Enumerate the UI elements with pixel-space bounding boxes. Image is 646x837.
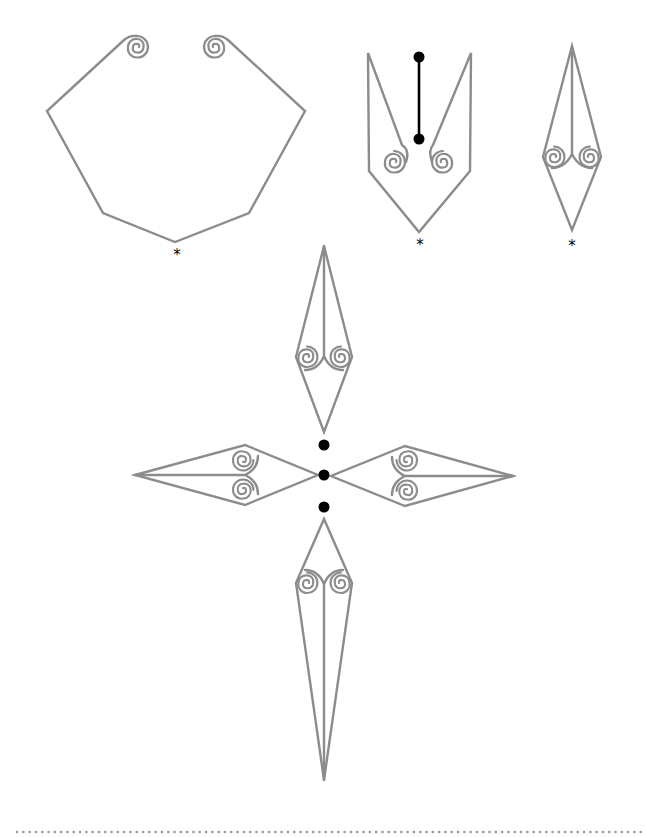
center-dot-middle (319, 470, 330, 481)
spiral-icon (128, 36, 148, 58)
cross-bottom-diamond (296, 519, 352, 780)
spiral-icon (233, 480, 253, 499)
cross-top-diamond (296, 246, 352, 432)
pin-dot-top (414, 52, 425, 63)
spiral-icon (331, 573, 350, 593)
fold-marker: * (568, 237, 576, 255)
diamond-center-line (392, 457, 513, 495)
spiral-icon (298, 347, 317, 367)
spiral-icon (580, 147, 599, 167)
fold-marker: * (173, 246, 181, 264)
cross-right-diamond (331, 446, 513, 506)
figure-hexagon-with-scrolls: * (47, 36, 305, 264)
cross-left-diamond (135, 445, 318, 505)
spiral-icon (233, 451, 253, 470)
diagram-canvas: * * * (0, 0, 646, 837)
spiral-icon (397, 451, 417, 470)
pin-dot-bottom (414, 134, 425, 145)
spiral-icon (385, 151, 405, 173)
spiral-icon (545, 147, 564, 167)
figure-diamond-with-scrolls: * (543, 46, 601, 255)
hexagon-outline (47, 36, 305, 242)
spiral-icon (298, 573, 317, 593)
spiral-icon (204, 36, 224, 58)
figure-v-shape-with-scrolls: * (368, 52, 471, 255)
center-dot-top (319, 440, 330, 451)
center-dot-bottom (319, 502, 330, 513)
diamond-center-line (135, 456, 258, 494)
diamond-center-line (305, 570, 343, 780)
spiral-icon (331, 347, 350, 367)
spiral-icon (432, 151, 452, 173)
fold-marker: * (416, 236, 424, 254)
figure-cross-assembly (135, 246, 513, 780)
spiral-icon (397, 481, 417, 500)
